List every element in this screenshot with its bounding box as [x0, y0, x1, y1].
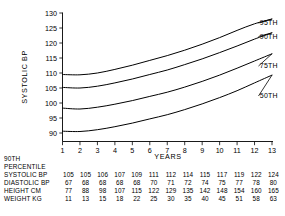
table-cell: 45: [214, 195, 231, 203]
table-cell: 70: [145, 179, 162, 187]
table-cell: 154: [231, 187, 248, 195]
percentile-curve-labels: 95TH90TH75TH50TH: [259, 19, 278, 99]
x-tick-label-9: 9: [200, 146, 204, 155]
y-tick-label-110: 110: [46, 69, 57, 78]
table-cell: 68: [111, 179, 128, 187]
table-cell: 40: [197, 195, 214, 203]
table-cell: 129: [162, 187, 179, 195]
y-axis-ticks: [59, 13, 62, 133]
y-tick-label-100: 100: [45, 99, 57, 108]
table-row: SYSTOLIC BP10510510610710911111211411511…: [4, 171, 282, 179]
table-cell: 148: [214, 187, 231, 195]
table-cell: 122: [145, 187, 162, 195]
table-cell: 105: [60, 171, 77, 179]
table-row: DIASTOLIC BP67686868687071727475777880: [4, 179, 282, 187]
table-cell: 98: [94, 187, 111, 195]
y-axis-title: SYSTOLIC BP: [20, 50, 29, 104]
table-cell: 119: [231, 171, 248, 179]
series-label-90th: 90TH: [260, 33, 278, 40]
curve-50th: [63, 75, 273, 131]
table-cell: 117: [214, 171, 231, 179]
table-cell: 107: [111, 171, 128, 179]
table-cell: 13: [77, 195, 94, 203]
table-cell: 58: [248, 195, 265, 203]
table-heading-line-1: 90TH: [4, 155, 282, 163]
row-label: WEIGHT KG: [4, 195, 60, 203]
table-cell: 80: [265, 179, 282, 187]
table-cell: 135: [179, 187, 196, 195]
series-label-75th: 75TH: [260, 62, 278, 69]
y-tick-label-125: 125: [45, 24, 57, 33]
x-tick-label-1: 1: [61, 146, 65, 155]
y-tick-label-95: 95: [49, 114, 57, 123]
values-table: SYSTOLIC BP10510510610710911111211411511…: [4, 171, 282, 203]
curve-90th: [63, 33, 273, 88]
table-cell: 75: [214, 179, 231, 187]
table-row: HEIGHT CM7788981071151221291351421481541…: [4, 187, 282, 195]
table-cell: 160: [248, 187, 265, 195]
x-tick-label-12: 12: [251, 146, 259, 155]
y-axis-tick-labels: 9095100105110115120125130: [45, 9, 57, 138]
table-cell: 15: [94, 195, 111, 203]
table-cell: 35: [179, 195, 196, 203]
table-cell: 30: [162, 195, 179, 203]
table-cell: 74: [197, 179, 214, 187]
x-tick-label-13: 13: [268, 146, 276, 155]
table-row: WEIGHT KG11131518222530354045515863: [4, 195, 282, 203]
table-cell: 112: [162, 171, 179, 179]
series-label-50th: 50TH: [260, 92, 278, 99]
row-label: SYSTOLIC BP: [4, 171, 60, 179]
percentile-data-table: 90TH PERCENTILE SYSTOLIC BP1051051061071…: [4, 155, 282, 203]
table-cell: 71: [162, 179, 179, 187]
table-cell: 109: [128, 171, 145, 179]
table-cell: 115: [197, 171, 214, 179]
table-cell: 63: [265, 195, 282, 203]
table-cell: 18: [111, 195, 128, 203]
x-tick-label-8: 8: [183, 146, 187, 155]
table-cell: 106: [94, 171, 111, 179]
table-cell: 114: [179, 171, 196, 179]
y-tick-label-130: 130: [45, 9, 57, 18]
table-cell: 124: [265, 171, 282, 179]
table-cell: 88: [77, 187, 94, 195]
table-cell: 107: [111, 187, 128, 195]
x-tick-label-2: 2: [78, 146, 82, 155]
table-cell: 142: [197, 187, 214, 195]
table-cell: 72: [179, 179, 196, 187]
table-cell: 68: [128, 179, 145, 187]
table-cell: 105: [77, 171, 94, 179]
table-cell: 51: [231, 195, 248, 203]
table-heading-line-2: PERCENTILE: [4, 163, 282, 171]
table-cell: 25: [145, 195, 162, 203]
table-cell: 165: [265, 187, 282, 195]
curve-75th: [63, 54, 273, 109]
table-cell: 11: [60, 195, 77, 203]
table-cell: 77: [231, 179, 248, 187]
table-cell: 68: [94, 179, 111, 187]
chart-page: 9095100105110115120125130 12345678910111…: [0, 0, 285, 216]
table-cell: 77: [60, 187, 77, 195]
percentile-curves: [63, 19, 273, 132]
table-cell: 22: [128, 195, 145, 203]
table-cell: 67: [60, 179, 77, 187]
axes: [63, 13, 274, 142]
x-tick-label-10: 10: [216, 146, 224, 155]
table-cell: 111: [145, 171, 162, 179]
row-label: HEIGHT CM: [4, 187, 60, 195]
table-cell: 68: [77, 179, 94, 187]
y-tick-label-90: 90: [49, 129, 57, 138]
y-tick-label-105: 105: [45, 84, 57, 93]
y-tick-label-120: 120: [45, 39, 57, 48]
table-cell: 122: [248, 171, 265, 179]
series-label-95th: 95TH: [260, 19, 278, 26]
table-cell: 115: [128, 187, 145, 195]
x-tick-label-6: 6: [148, 146, 152, 155]
x-tick-label-4: 4: [113, 146, 117, 155]
table-cell: 78: [248, 179, 265, 187]
y-tick-label-115: 115: [46, 54, 57, 63]
x-tick-label-5: 5: [130, 146, 134, 155]
x-tick-label-11: 11: [233, 146, 240, 155]
row-label: DIASTOLIC BP: [4, 179, 60, 187]
x-tick-label-3: 3: [95, 146, 99, 155]
